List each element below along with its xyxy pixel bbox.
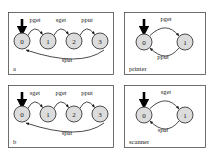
panel-b-edge-label-sput: sput <box>62 129 73 136</box>
panel-b-edge-label-pput: pput <box>81 89 93 96</box>
panel-b-state-3-label: 3 <box>98 111 102 119</box>
panel-a-state-2-label: 2 <box>72 38 76 46</box>
panel-a-state-1-label: 1 <box>46 38 50 46</box>
panel-printer-edge-label-pput: pput <box>157 53 169 60</box>
panel-printer-edge-label-pget: pget <box>160 15 171 22</box>
panel-a-caption: a <box>13 65 16 72</box>
panel-scanner-edge-label-sget: sget <box>161 88 172 95</box>
panel-scanner: 0 1 sget sput scanner <box>125 86 206 148</box>
figure-container: 0 1 2 3 pget sget pput sput a 0 1 pget p… <box>0 0 214 159</box>
panel-a-state-0-label: 0 <box>20 38 24 46</box>
panel-a-edge-label-sput: sput <box>62 56 73 63</box>
panel-scanner-caption: scanner <box>129 138 150 145</box>
panel-a-state-3-label: 3 <box>98 38 102 46</box>
panel-a: 0 1 2 3 pget sget pput sput a <box>9 13 114 75</box>
panel-scanner-state-1-label: 1 <box>183 112 187 120</box>
panel-a-edge-label-pput: pput <box>81 16 93 23</box>
panel-b-state-2-label: 2 <box>72 111 76 119</box>
panel-b-state-0-label: 0 <box>20 111 24 119</box>
panel-b: 0 1 2 3 sget pget pput sput b <box>9 86 114 148</box>
panel-b-edge-label-sget: sget <box>30 89 41 96</box>
panel-a-edge-label-sget: sget <box>56 16 67 23</box>
panel-printer: 0 1 pget pput printer <box>125 13 206 75</box>
panel-printer-state-0-label: 0 <box>142 39 146 47</box>
panel-scanner-edge-label-sput: sput <box>158 126 169 133</box>
panel-printer-state-1-label: 1 <box>183 39 187 47</box>
panel-printer-caption: printer <box>129 65 147 72</box>
panel-a-edge-label-pget: pget <box>29 16 40 23</box>
panel-b-edge-label-pget: pget <box>55 89 66 96</box>
panel-b-state-1-label: 1 <box>46 111 50 119</box>
panel-scanner-state-0-label: 0 <box>142 112 146 120</box>
